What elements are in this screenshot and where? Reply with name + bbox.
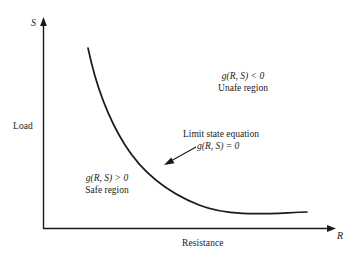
x-axis-variable-label: R [337, 230, 343, 241]
unsafe-region-caption: Unafe region [218, 83, 268, 93]
limit-state-pointer-arrowhead [164, 157, 175, 165]
y-axis-title: Load [13, 121, 33, 133]
safe-region-equation: g(R, S) > 0 [86, 173, 128, 183]
limit-state-caption: Limit state equation [183, 129, 259, 139]
limit-state-annotation: Limit state equation g(R, S) = 0 [183, 128, 289, 152]
limit-state-diagram: S R Load Resistance g(R, S) < 0 Unafe re… [0, 0, 357, 263]
safe-region-caption: Safe region [85, 185, 129, 195]
limit-state-equation: g(R, S) = 0 [183, 140, 289, 152]
x-axis-title: Resistance [182, 238, 224, 250]
unsafe-region-equation: g(R, S) < 0 [222, 71, 264, 81]
diagram-canvas [0, 0, 357, 263]
unsafe-region-annotation: g(R, S) < 0 Unafe region [196, 70, 290, 94]
y-axis-arrowhead [40, 17, 47, 26]
x-axis-arrowhead [327, 225, 336, 232]
safe-region-annotation: g(R, S) > 0 Safe region [60, 172, 154, 196]
y-axis-variable-label: S [31, 17, 36, 28]
